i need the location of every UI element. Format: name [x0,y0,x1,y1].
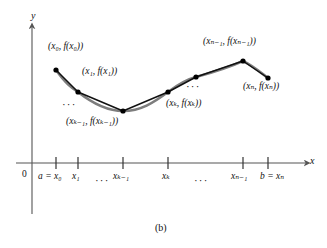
point-xn-1 [240,58,245,63]
point-xn [265,75,270,80]
figure-panel: y x 0 (x₀, f(x₀)) (x₁, f(x₁)) (xₖ₋₁, f(x… [0,0,327,248]
tick-label-xk: xₖ [162,172,170,182]
point-mid [193,74,198,79]
point-label-x1: (x₁, f(x₁)) [82,67,117,77]
tick-label-x0: a = x₀ [38,172,61,182]
point-label-xk: (xₖ, f(xₖ)) [166,99,201,109]
tick-label-xn-1: xₙ₋₁ [231,172,247,182]
point-label-xn: (xₙ, f(xₙ)) [243,82,279,92]
curve-ellipsis-right: ··· [186,81,201,92]
point-xk [165,89,170,94]
point-label-xn-1: (xₙ₋₁, f(xₙ₋₁)) [203,37,256,47]
tick-label-x1: x₁ [72,172,80,182]
y-axis-label: y [31,11,35,21]
tick-label-xk-1: xₖ₋₁ [113,172,129,182]
tick-label-xn: b = xₙ [260,172,284,182]
point-label-x0: (x₀, f(x₀)) [48,42,83,52]
point-x0 [53,67,58,72]
axis-ellipsis-left: ··· [95,175,110,186]
point-label-xk-1: (xₖ₋₁, f(xₖ₋₁)) [66,117,118,127]
curve-ellipsis-left: ··· [62,99,77,110]
point-x1 [75,89,80,94]
x-axis-label: x [310,156,314,166]
point-xk-1 [120,108,125,113]
origin-label: 0 [22,170,27,180]
figure-caption: (b) [155,222,167,233]
axis-ellipsis-right: ··· [194,175,209,186]
plot-canvas [0,0,327,248]
